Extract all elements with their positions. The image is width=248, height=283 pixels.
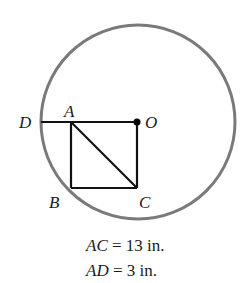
label-c: C xyxy=(139,193,151,212)
label-a: A xyxy=(63,102,75,121)
given-ad: AD = 3 in. xyxy=(85,261,157,280)
segment-ac xyxy=(71,122,137,188)
center-point-o xyxy=(134,119,141,126)
given-ac-value: = 13 in. xyxy=(108,236,165,255)
geometry-diagram: D A O B C AC = 13 in. AD = 3 in. xyxy=(0,0,248,283)
given-ac: AC = 13 in. xyxy=(85,236,165,255)
given-ac-var: AC xyxy=(85,236,108,255)
given-ad-var: AD xyxy=(85,261,109,280)
label-b: B xyxy=(49,193,60,212)
given-ad-value: = 3 in. xyxy=(109,261,157,280)
label-o: O xyxy=(145,113,157,132)
label-d: D xyxy=(18,113,32,132)
